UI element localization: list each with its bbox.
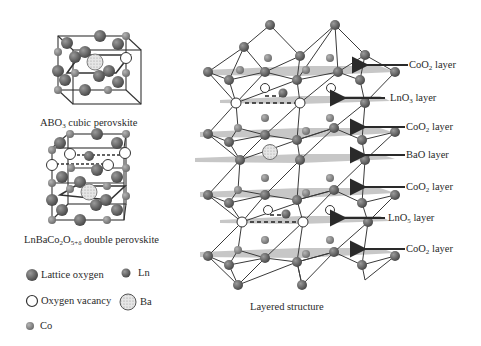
oxygen-vacancy-icon [27,296,38,307]
legend-oxygen-vacancy: Oxygen vacancy [41,296,111,307]
layer-label-coo2-4: CoO2 layer [406,244,453,255]
layer-label-lno5: LnO5 layer [388,213,434,224]
layer-label-coo2-1: CoO2 layer [409,60,456,71]
legend-lattice-oxygen: Lattice oxygen [41,270,104,281]
lattice-oxygen-icon [26,269,38,281]
layered-structure-caption: Layered structure [250,302,324,313]
ba-icon [120,294,136,310]
layer-label-coo2-3: CoO2 layer [406,182,453,193]
cubic-perovskite-caption: ABO3 cubic perovskite [40,118,137,129]
legend-ba: Ba [140,297,152,308]
double-perovskite-caption: LnBaCo2O5+δ double perovskite [24,235,159,246]
double-perovskite-atoms [46,128,131,226]
layer-label-lno3: LnO3 layer [390,93,436,104]
layer-label-bao: BaO layer [406,150,449,161]
co-icon [26,322,34,330]
cubic-perovskite-atoms [52,30,132,96]
legend-ln: Ln [138,268,150,279]
ln-icon [122,269,131,278]
layer-label-coo2-2: CoO2 layer [406,122,453,133]
legend-co: Co [40,321,52,332]
